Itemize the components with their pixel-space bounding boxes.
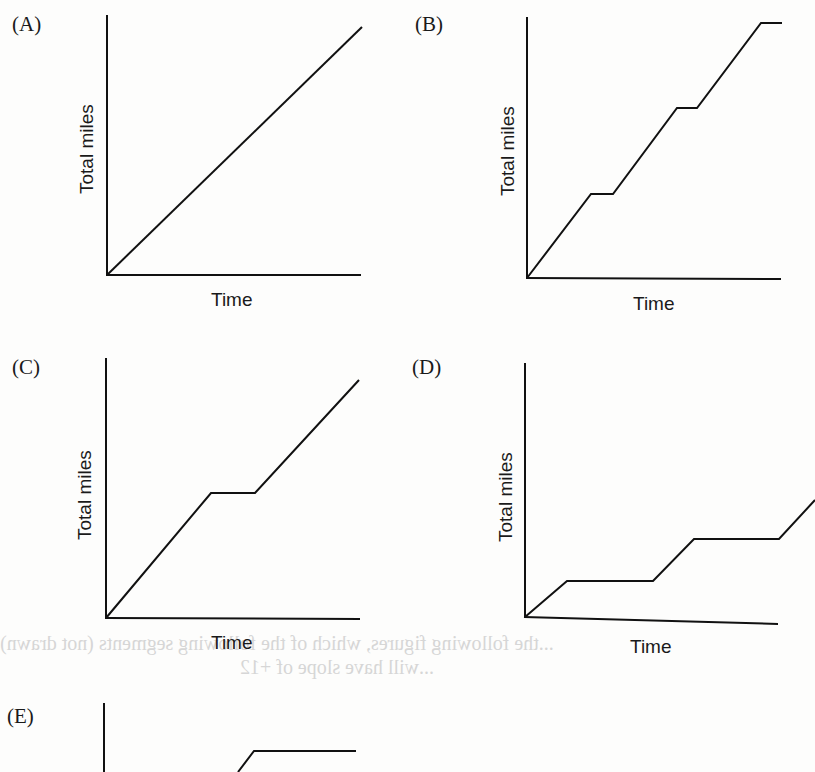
graph-c-line: [106, 380, 359, 618]
graph-d-line: [525, 500, 815, 617]
graph-c-label: (C): [12, 355, 40, 380]
graph-a-y-label: Total miles: [76, 104, 98, 194]
graph-e-line: [238, 751, 356, 772]
graph-a-line: [107, 27, 362, 275]
graph-d-x-label: Time: [630, 636, 672, 658]
graph-d-x-axis: [524, 617, 778, 624]
graph-d-y-label: Total miles: [495, 452, 517, 542]
graph-b-x-axis: [526, 278, 781, 279]
graphs-canvas: [0, 0, 815, 772]
graph-b-line: [527, 23, 782, 278]
graph-d-label: (D): [412, 355, 441, 380]
graph-c-x-axis: [105, 618, 360, 619]
graph-e: [104, 703, 356, 772]
graph-a-label: (A): [12, 12, 41, 37]
graph-b-y-label: Total miles: [497, 106, 519, 196]
worksheet-page: ...the following figures, which of the f…: [0, 0, 815, 772]
graph-e-label: (E): [7, 704, 34, 729]
graph-b-label: (B): [415, 12, 443, 37]
graph-b-x-label: Time: [633, 293, 675, 315]
graph-b: [526, 17, 782, 279]
graph-c-x-label: Time: [211, 632, 253, 654]
graph-c-y-label: Total miles: [74, 450, 96, 540]
graph-d: [524, 363, 815, 624]
graph-a: [106, 15, 362, 276]
graph-a-x-label: Time: [211, 289, 253, 311]
graph-c: [105, 358, 360, 619]
